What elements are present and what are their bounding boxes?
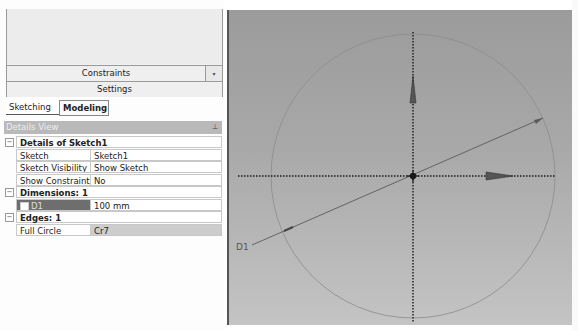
dimension-row[interactable]: D1 100 mm: [4, 199, 222, 212]
group-title: Dimensions: 1: [16, 186, 222, 198]
chevron-down-icon[interactable]: ▾: [205, 66, 222, 81]
group-title: Details of Sketch1: [16, 136, 222, 148]
collapse-icon[interactable]: −: [5, 138, 14, 147]
edge-row[interactable]: Full Circle Cr7: [4, 224, 222, 237]
dimension-arrow-start: [284, 227, 293, 231]
group-title: Edges: 1: [16, 211, 222, 223]
property-value[interactable]: Show Sketch: [91, 161, 222, 173]
group-edges: − Edges: 1: [4, 211, 222, 224]
graphics-viewport[interactable]: D1: [227, 10, 572, 325]
property-value[interactable]: No: [91, 174, 222, 186]
sketch-canvas: [229, 10, 572, 325]
settings-toolbox-button[interactable]: Settings: [7, 81, 222, 97]
details-view-header: Details View ⊥: [4, 121, 222, 134]
toolbox-content-area: [7, 9, 222, 64]
edge-label: Full Circle: [16, 224, 91, 236]
y-axis-arrow-icon: [410, 76, 416, 103]
dimension-value[interactable]: 100 mm: [91, 199, 222, 211]
dimension-line-d1: [252, 118, 543, 245]
sketching-toolbox: Constraints ▾ Settings: [6, 9, 223, 97]
edge-value[interactable]: Cr7: [91, 224, 222, 236]
details-grid: − Details of Sketch1 Sketch Sketch1 Sket…: [4, 136, 222, 236]
property-label: Show Constraints?: [16, 174, 91, 186]
property-row[interactable]: Sketch Visibility Show Sketch: [4, 161, 222, 174]
dimension-annotation-d1[interactable]: D1: [236, 242, 249, 252]
group-details-of-sketch: − Details of Sketch1: [4, 136, 222, 149]
right-edge: [572, 0, 578, 331]
constraints-toolbox-button[interactable]: Constraints ▾: [7, 65, 222, 81]
property-row[interactable]: Show Constraints? No: [4, 174, 222, 187]
collapse-icon[interactable]: −: [5, 213, 14, 222]
group-dimensions: − Dimensions: 1: [4, 186, 222, 199]
dimension-checkbox[interactable]: [20, 202, 29, 211]
dimension-label-cell: D1: [16, 199, 91, 211]
x-axis-arrow-icon: [486, 172, 513, 180]
dimension-label: D1: [31, 201, 43, 211]
property-label: Sketch Visibility: [16, 161, 91, 173]
pin-icon[interactable]: ⊥: [212, 121, 218, 134]
tab-sketching[interactable]: Sketching: [6, 100, 62, 115]
tab-modeling[interactable]: Modeling: [59, 100, 109, 116]
constraints-label: Constraints: [7, 66, 205, 81]
left-panel: Constraints ▾ Settings Sketching Modelin…: [0, 0, 224, 331]
details-view-title: Details View: [6, 122, 58, 132]
dimension-arrow-end: [534, 118, 543, 124]
property-row[interactable]: Sketch Sketch1: [4, 149, 222, 162]
property-value[interactable]: Sketch1: [91, 149, 222, 161]
property-label: Sketch: [16, 149, 91, 161]
collapse-icon[interactable]: −: [5, 188, 14, 197]
